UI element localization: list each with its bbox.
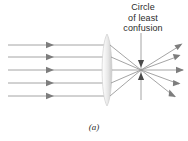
refracted-ray [110,70,141,96]
pointer-arrow-up-icon [138,73,144,81]
arrowhead-icon [173,80,181,86]
annotation-label-line-3: confusion [100,23,186,34]
refracted-ray [111,70,141,83]
arrowhead-icon [46,80,54,86]
arrowhead-icon [46,54,54,60]
arrowhead-icon [46,67,54,73]
pointer-arrow-down-icon [138,60,144,68]
arrowhead-icon [169,90,176,97]
arrowhead-icon [176,67,184,73]
refracted-rays [110,45,141,96]
arrowhead-icon [174,43,182,50]
annotation-label-line-2: of least [100,13,186,24]
refracted-ray [111,57,141,70]
annotation-pointer [138,33,144,100]
incoming-rays [8,45,104,96]
annotation-label-line-1: Circle [100,2,186,13]
figure-caption: (a) [0,122,188,132]
arrowhead-icon [46,93,54,99]
incoming-ray-arrowheads [46,42,54,99]
annotation-label: Circle of least confusion [100,2,186,34]
arrowhead-icon [46,42,54,48]
arrowhead-icon [173,54,181,60]
optics-figure: Circle of least confusion (a) [0,0,188,141]
refracted-ray [110,45,141,70]
